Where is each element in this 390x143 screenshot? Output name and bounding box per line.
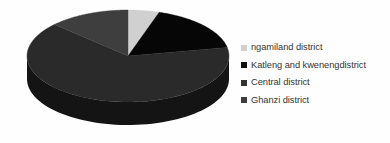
- pie-chart-figure: ngamiland district Katleng and kwenengdi…: [0, 0, 390, 143]
- legend-swatch-icon: [241, 97, 247, 103]
- legend-item-katleng-and-kweneng-district[interactable]: Katleng and kwenengdistrict: [240, 57, 390, 75]
- legend-swatch-icon: [241, 45, 247, 51]
- pie-chart-svg: [0, 0, 240, 143]
- legend-item-ghanzi-district[interactable]: Ghanzi district: [240, 92, 390, 110]
- legend-label: Katleng and kwenengdistrict: [251, 60, 366, 71]
- chart-legend: ngamiland district Katleng and kwenengdi…: [240, 39, 390, 109]
- legend-item-ngamiland-district[interactable]: ngamiland district: [240, 39, 390, 57]
- legend-label: Ghanzi district: [251, 95, 309, 106]
- legend-swatch-icon: [241, 80, 247, 86]
- legend-swatch-icon: [241, 62, 247, 68]
- pie-chart-graphic: [0, 0, 240, 143]
- legend-item-central-district[interactable]: Central district: [240, 74, 390, 92]
- legend-label: ngamiland district: [251, 42, 322, 53]
- legend-label: Central district: [251, 77, 310, 88]
